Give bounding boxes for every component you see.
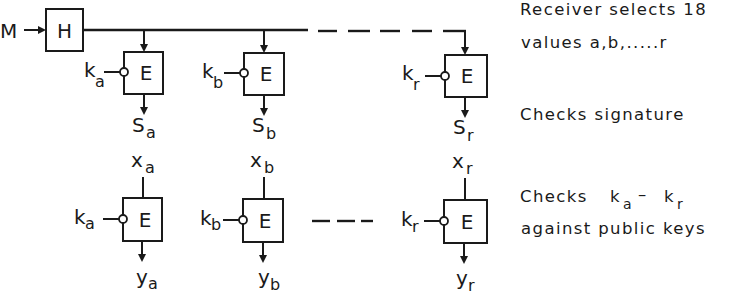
key-subscript: b xyxy=(213,73,223,92)
checks-keys-k2: k xyxy=(664,187,675,206)
encrypt-label: E xyxy=(461,64,474,88)
annotation-against-public-keys: against public keys xyxy=(521,219,706,238)
hash-block: H xyxy=(46,9,83,51)
key-port-icon xyxy=(440,217,448,225)
signature-subscript: b xyxy=(266,124,276,143)
input-x-label: x xyxy=(131,148,143,172)
sign-block-r: E k r S r xyxy=(402,30,487,145)
output-y-label: y xyxy=(456,266,468,290)
key-subscript: a xyxy=(95,72,105,91)
key-subscript: a xyxy=(85,214,95,233)
checks-keys-sub2: r xyxy=(677,196,683,212)
signature-diagram: M H E k a S a E k xyxy=(0,0,729,305)
key-port-icon xyxy=(240,69,248,77)
encrypt-label: E xyxy=(260,62,273,86)
checks-keys-dash: – xyxy=(638,185,648,204)
arrow-down-icon xyxy=(138,254,146,262)
output-y-subscript: r xyxy=(468,276,475,295)
sign-block-a: E k a S a xyxy=(84,30,163,142)
output-y-subscript: a xyxy=(148,274,158,293)
arrow-down-icon xyxy=(460,256,468,264)
arrow-down-icon xyxy=(259,255,267,263)
signature-subscript: a xyxy=(146,123,156,142)
encrypt-label: E xyxy=(140,61,153,85)
annotation-checks-keys: Checks k a – k r xyxy=(520,185,683,212)
verify-block-b: x b E k b y b xyxy=(200,148,283,294)
key-subscript: r xyxy=(412,217,419,236)
checks-keys-sub1: a xyxy=(623,196,632,212)
annotation-select-line2: values a,b,.....r xyxy=(521,33,668,52)
arrow-down-icon xyxy=(260,45,268,53)
signature-label: S xyxy=(252,113,265,137)
output-y-subscript: b xyxy=(270,275,280,294)
checks-keys-k1: k xyxy=(610,187,621,206)
hash-bus xyxy=(83,30,466,31)
arrow-down-icon xyxy=(461,47,469,55)
encrypt-label: E xyxy=(461,210,474,234)
verify-block-a: x a E k a y a xyxy=(74,148,162,293)
input-x-label: x xyxy=(250,148,262,172)
output-y-label: y xyxy=(258,265,270,289)
key-subscript: b xyxy=(211,215,221,234)
checks-keys-prefix: Checks xyxy=(520,187,588,206)
hash-block-label: H xyxy=(57,19,72,43)
signature-label: S xyxy=(453,115,466,139)
verify-block-r: x r E k r y r xyxy=(401,149,487,295)
arrow-down-icon xyxy=(140,44,148,52)
key-port-icon xyxy=(239,216,247,224)
signature-label: S xyxy=(132,113,145,137)
input-x-subscript: b xyxy=(264,158,274,177)
key-subscript: r xyxy=(413,75,420,94)
key-port-icon xyxy=(441,72,449,80)
input-arrow-icon xyxy=(24,26,46,34)
input-x-label: x xyxy=(452,149,464,173)
encrypt-label: E xyxy=(259,209,272,233)
input-message-label: M xyxy=(0,19,17,43)
signature-subscript: r xyxy=(467,126,474,145)
sign-block-b: E k b S b xyxy=(202,30,284,143)
key-port-icon xyxy=(119,215,127,223)
input-x-subscript: r xyxy=(466,159,473,178)
key-port-icon xyxy=(120,68,128,76)
annotation-select-line1: Receiver selects 18 xyxy=(520,0,707,19)
output-y-label: y xyxy=(136,265,148,289)
input-x-subscript: a xyxy=(145,158,155,177)
encrypt-label: E xyxy=(139,208,152,232)
annotation-checks-signature: Checks signature xyxy=(520,105,685,124)
